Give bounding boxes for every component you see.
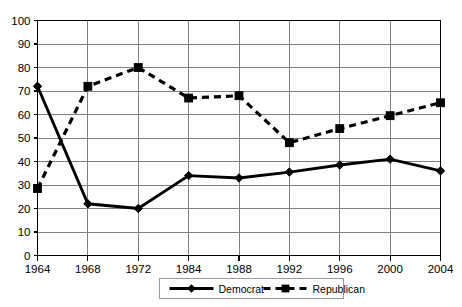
x-axis-tick-label: 1996 (327, 263, 353, 275)
data-point-marker-republican (386, 112, 394, 120)
y-axis-tick-label: 70 (18, 85, 31, 97)
x-axis-tick-label: 1968 (75, 263, 101, 275)
x-axis-tick-labels: 196419681972198419881992199620002004 (25, 263, 454, 275)
y-axis-tick-label: 80 (18, 62, 31, 74)
y-axis-tick-label: 20 (18, 203, 31, 215)
data-point-marker-republican (134, 64, 142, 72)
chart-container: 0102030405060708090100 19641968197219841… (0, 0, 462, 307)
data-point-marker-republican (185, 94, 193, 102)
legend-marker-republican (282, 285, 290, 293)
chart-background (0, 0, 462, 307)
data-point-marker-republican (336, 125, 344, 133)
y-axis-tick-label: 10 (18, 226, 31, 238)
data-point-marker-republican (34, 185, 42, 193)
legend-label-democrat: Democrat (219, 283, 265, 295)
x-axis-tick-label: 1988 (226, 263, 252, 275)
x-axis-tick-label: 1972 (125, 263, 151, 275)
data-point-marker-republican (285, 139, 293, 147)
y-axis-tick-label: 90 (18, 38, 31, 50)
y-axis-tick-label: 30 (18, 179, 31, 191)
x-axis-tick-label: 1984 (176, 263, 202, 275)
line-chart: 0102030405060708090100 19641968197219841… (0, 0, 462, 307)
y-axis-tick-label: 100 (11, 15, 30, 27)
x-axis-tick-label: 2000 (377, 263, 403, 275)
data-point-marker-republican (235, 92, 243, 100)
y-axis-tick-label: 0 (24, 250, 30, 262)
y-axis-tick-label: 50 (18, 132, 31, 144)
y-axis-tick-label: 40 (18, 156, 31, 168)
data-point-marker-republican (437, 99, 445, 107)
x-axis-tick-label: 1992 (277, 263, 303, 275)
y-axis-tick-label: 60 (18, 109, 31, 121)
chart-legend: DemocratRepublican (160, 279, 366, 299)
x-axis-tick-label: 2004 (428, 263, 454, 275)
data-point-marker-republican (84, 82, 92, 90)
x-axis-tick-label: 1964 (25, 263, 51, 275)
legend-label-republican: Republican (313, 283, 366, 295)
